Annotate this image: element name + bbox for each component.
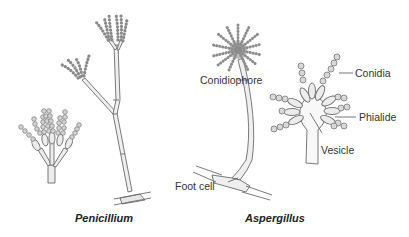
caption-penicillium: Penicillium bbox=[75, 213, 133, 224]
fungal-conidiophore-diagram: Conidiophore Foot cell Conidia Phialide … bbox=[0, 0, 409, 237]
label-phialide: Phialide bbox=[359, 112, 396, 123]
penicillium-brush-detail bbox=[30, 132, 74, 183]
label-conidiophore: Conidiophore bbox=[200, 75, 262, 86]
aspergillus-conidial-head bbox=[213, 25, 262, 70]
penicillium-conidiophore bbox=[82, 38, 151, 205]
label-conidia: Conidia bbox=[355, 68, 391, 79]
label-foot-cell: Foot cell bbox=[175, 181, 215, 192]
label-vesicle: Vesicle bbox=[321, 145, 354, 156]
caption-aspergillus: Aspergillus bbox=[245, 213, 305, 224]
